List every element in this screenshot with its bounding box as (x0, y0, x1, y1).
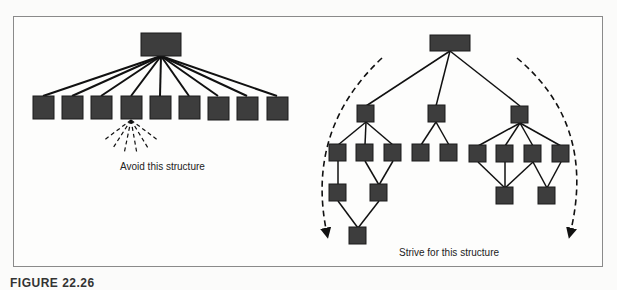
right-l2-node (552, 145, 569, 162)
right-l2-node (329, 144, 346, 161)
left-child-node (121, 96, 142, 119)
left-child-node (237, 97, 258, 120)
right-l4-node (349, 227, 366, 244)
right-l2-node (356, 144, 373, 161)
left-child-node (91, 96, 112, 119)
right-l2-node (524, 145, 541, 162)
right-l2-node (440, 144, 457, 161)
right-diagram-label: Strive for this structure (399, 247, 499, 258)
right-l2-node (496, 145, 513, 162)
left-child-node (62, 96, 83, 119)
right-l1-node (357, 105, 374, 122)
left-fanout-dashes (103, 120, 159, 154)
left-child-node (179, 96, 200, 119)
left-tree (43, 56, 277, 96)
left-child-node (33, 96, 54, 119)
right-l2-node (412, 144, 429, 161)
right-l3-node (329, 184, 346, 201)
left-child-node (267, 97, 288, 120)
right-l3-node (538, 187, 555, 204)
right-l2-node (384, 144, 401, 161)
figure-caption: FIGURE 22.26 (10, 276, 95, 290)
left-diagram-label: Avoid this structure (120, 161, 205, 172)
left-root-node (141, 33, 181, 56)
right-root-node (430, 35, 470, 51)
right-l1-node (511, 106, 528, 123)
right-l2-node (469, 145, 486, 162)
right-l3-node (496, 187, 513, 204)
left-child-node (208, 97, 229, 120)
left-child-node (150, 96, 171, 119)
right-l1-node (428, 105, 445, 122)
right-l3-node (370, 184, 387, 201)
